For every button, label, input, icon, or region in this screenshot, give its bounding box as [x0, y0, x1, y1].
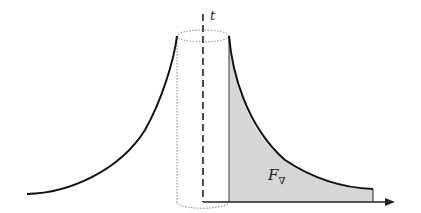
x-axis-arrow-icon: [385, 198, 395, 206]
cylinder-bottom: [177, 203, 229, 208]
shaded-region: [229, 42, 373, 202]
bell-curve-cylinder-diagram: t F∇: [0, 0, 421, 213]
left-curve: [27, 36, 177, 194]
area-label-subscript: ∇: [278, 175, 285, 186]
area-label-main: F: [267, 166, 279, 184]
t-axis-label: t: [210, 8, 216, 23]
